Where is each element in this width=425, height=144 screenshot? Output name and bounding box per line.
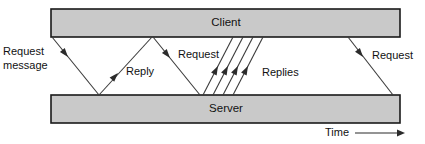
replies-group-arrowhead-2: [221, 66, 228, 75]
replies-label: Replies: [262, 66, 299, 78]
replies-group-arrowhead-4: [241, 66, 248, 75]
server-label: Server: [209, 102, 243, 114]
reply-1-arrowhead: [110, 73, 118, 82]
reply-label: Reply: [126, 65, 155, 77]
client-label: Client: [211, 16, 241, 28]
request-label-middle: Request: [178, 48, 219, 60]
request-label-right: Request: [372, 49, 413, 61]
time-axis: Time: [325, 126, 405, 138]
replies-group-arrowhead-1: [211, 66, 218, 75]
time-axis-label: Time: [325, 126, 349, 138]
server-lifeline: Server: [51, 95, 400, 123]
request-1-line: [52, 37, 99, 95]
time-axis-arrow-head: [397, 130, 405, 137]
sequence-diagram-svg: Client Server Request message Reply Requ…: [0, 0, 425, 144]
request-1-arrowhead: [60, 48, 68, 57]
client-lifeline: Client: [51, 9, 400, 37]
message-arrows-layer: [52, 37, 393, 95]
request-2-line: [153, 37, 200, 95]
sequence-diagram-canvas: Client Server Request message Reply Requ…: [0, 0, 425, 144]
request-message-label-line1: Request: [3, 45, 44, 57]
request-3-arrowhead: [355, 48, 363, 57]
request-2-arrowhead: [162, 49, 170, 58]
request-message-label-line2: message: [3, 59, 48, 71]
request-3-line: [348, 37, 393, 95]
replies-group-arrowhead-3: [231, 66, 238, 75]
